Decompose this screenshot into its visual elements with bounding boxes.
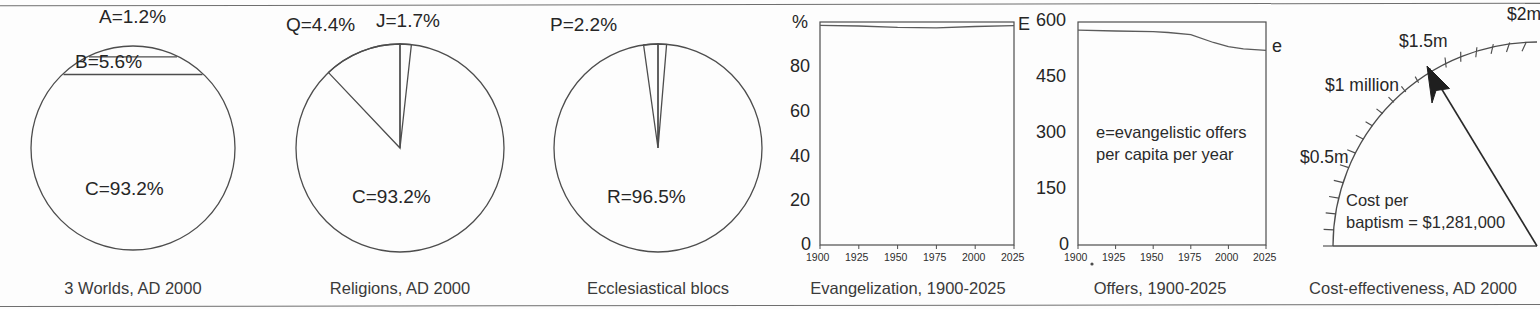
xtick-label-1975: 1975 <box>923 251 946 263</box>
xtick-label-1975: 1975 <box>1178 251 1201 263</box>
caption-cost-effectiveness: Cost-effectiveness, AD 2000 <box>1286 279 1540 298</box>
panel-offers: 600 450 300 150 0 1900 1925 1950 1975 20… <box>1034 0 1286 309</box>
caption-three-worlds: 3 Worlds, AD 2000 <box>0 279 266 298</box>
caption-religions: Religions, AD 2000 <box>266 279 534 298</box>
ytick-label-150: 150 <box>1036 178 1066 199</box>
caption-ecclesiastical-blocs: Ecclesiastical blocs <box>534 279 782 298</box>
ytick-label-100: % <box>792 12 808 33</box>
caption-offers: Offers, 1900-2025 <box>1034 279 1286 298</box>
figure-strip: A=1.2% B=5.6% C=93.2% 3 Worlds, AD 2000 … <box>0 0 1540 309</box>
slice-other <box>658 44 667 148</box>
cost-note-line1: Cost per <box>1346 190 1408 211</box>
label-q: Q=4.4% <box>286 14 355 36</box>
xtick-label-1900: 1900 <box>806 251 829 263</box>
xtick-label-2000: 2000 <box>1215 251 1238 263</box>
label-c: C=93.2% <box>85 178 164 200</box>
caption-evangelization: Evangelization, 1900-2025 <box>782 279 1034 298</box>
slice-p <box>644 44 658 148</box>
label-p: P=2.2% <box>550 14 617 36</box>
offers-note-line2: per capita per year <box>1096 144 1234 165</box>
ytick-label-450: 450 <box>1036 66 1066 87</box>
panel-three-worlds: A=1.2% B=5.6% C=93.2% 3 Worlds, AD 2000 <box>0 0 266 309</box>
gauge-label-0-5m: $0.5m <box>1300 147 1349 168</box>
religions-pie <box>266 0 534 280</box>
panel-ecclesiastical-blocs: P=2.2% R=96.5% Ecclesiastical blocs <box>534 0 782 309</box>
label-a: A=1.2% <box>99 6 166 28</box>
label-b: B=5.6% <box>75 51 142 73</box>
xtick-label-1950: 1950 <box>884 251 907 263</box>
slice-q <box>328 44 400 148</box>
label-j: J=1.7% <box>376 10 440 32</box>
series-line-e <box>1078 30 1266 50</box>
gauge-label-1-million: $1 million <box>1325 75 1399 96</box>
series-label-e: e <box>1272 36 1282 57</box>
xtick-label-1925: 1925 <box>1102 251 1125 263</box>
ytick-label-20: 20 <box>790 190 810 211</box>
xtick-label-2000: 2000 <box>962 251 985 263</box>
stray-speck <box>1090 262 1093 265</box>
plot-frame <box>820 22 1014 245</box>
ytick-label-300: 300 <box>1036 122 1066 143</box>
ytick-label-80: 80 <box>790 56 810 77</box>
panel-evangelization: % 80 60 40 20 0 1900 1925 1950 1975 2000… <box>782 0 1034 309</box>
evangelization-chart <box>782 0 1034 280</box>
ytick-label-60: 60 <box>790 101 810 122</box>
xtick-label-1950: 1950 <box>1140 251 1163 263</box>
ytick-label-40: 40 <box>790 146 810 167</box>
series-line-E <box>820 25 1014 28</box>
slice-j <box>400 44 411 148</box>
ecclesiastical-pie <box>534 0 782 280</box>
series-label-E: E <box>1018 14 1030 35</box>
gauge-label-1-5m: $1.5m <box>1399 31 1448 52</box>
label-r: R=96.5% <box>607 186 686 208</box>
label-c: C=93.2% <box>352 186 431 208</box>
three-worlds-diagram <box>0 0 266 280</box>
xtick-label-1925: 1925 <box>845 251 868 263</box>
offers-note-line1: e=evangelistic offers <box>1096 122 1247 143</box>
ytick-label-600: 600 <box>1036 10 1066 31</box>
panel-cost-effectiveness: $0.5m $1 million $1.5m $2m Cost per bapt… <box>1286 0 1540 309</box>
panel-religions: Q=4.4% J=1.7% C=93.2% Religions, AD 2000 <box>266 0 534 309</box>
xtick-label-2025: 2025 <box>1253 251 1276 263</box>
world-circle <box>31 46 235 250</box>
cost-note-line2: baptism = $1,281,000 <box>1346 212 1505 233</box>
xtick-label-2025: 2025 <box>1001 251 1024 263</box>
gauge-label-2m: $2m <box>1507 4 1540 25</box>
xtick-label-1900: 1900 <box>1064 251 1087 263</box>
